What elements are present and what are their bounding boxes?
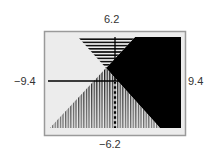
- xmin-label: −9.4: [14, 75, 36, 87]
- xmax-label: 9.4: [188, 75, 203, 87]
- ymin-label: −6.2: [99, 138, 121, 150]
- ymax-label: 6.2: [104, 13, 119, 25]
